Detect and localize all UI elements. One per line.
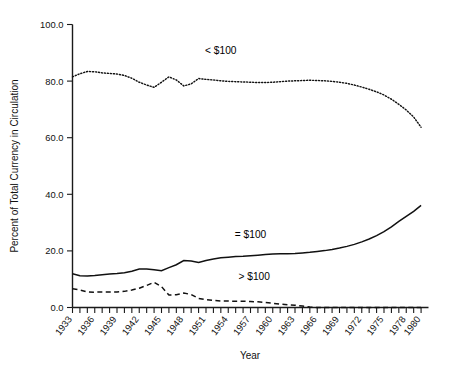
x-tick-label: 1933: [53, 314, 75, 337]
y-axis-title: Percent of Total Currency in Circulation: [9, 79, 20, 252]
x-tick-label: 1954: [208, 314, 230, 337]
y-tick-label: 40.0: [45, 189, 63, 200]
series-line-dashed: [73, 282, 422, 307]
chart-canvas: 0.020.040.060.080.0100.0 193319361939194…: [0, 0, 450, 371]
x-tick-label: 1972: [342, 314, 364, 337]
y-tick-label: 100.0: [40, 19, 63, 30]
y-tick-label: 80.0: [45, 76, 63, 87]
x-tick-label: 1939: [97, 314, 119, 337]
x-tick-label: 1945: [142, 314, 164, 337]
x-tick-label: 1966: [297, 314, 319, 337]
y-tick-label: 60.0: [45, 132, 63, 143]
y-tick-label: 0.0: [50, 302, 63, 313]
x-tick-label: 1942: [119, 314, 141, 337]
x-tick-label: 1957: [231, 314, 253, 337]
series-annotation: > $100: [238, 271, 270, 282]
x-tick-label: 1960: [253, 314, 275, 337]
x-tick-label: 1951: [186, 314, 208, 337]
series-line-dotted: [73, 71, 422, 127]
series-annotation: = $100: [235, 229, 267, 240]
series-line-solid: [73, 205, 422, 276]
x-axis-title: Year: [240, 350, 261, 361]
x-axis-group: 1933193619391942194519481951195419571960…: [53, 308, 429, 338]
x-tick-label: 1936: [75, 314, 97, 337]
x-tick-label: 1975: [364, 314, 386, 337]
currency-circulation-chart: 0.020.040.060.080.0100.0 193319361939194…: [0, 0, 450, 371]
y-tick-label: 20.0: [45, 245, 63, 256]
x-tick-label: 1963: [275, 314, 297, 337]
series-annotation: < $100: [205, 45, 237, 56]
x-tick-label: 1948: [164, 314, 186, 337]
y-axis-group: 0.020.040.060.080.0100.0: [40, 19, 72, 313]
x-tick-label: 1969: [320, 314, 342, 337]
x-tick-label: 1980: [401, 314, 423, 337]
